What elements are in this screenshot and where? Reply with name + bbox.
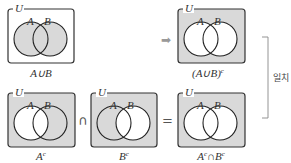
caption-superscript: c — [221, 67, 225, 75]
caption-union: A∪B — [29, 67, 52, 79]
venn-union: U A B A∪B — [8, 2, 74, 79]
caption-text: (A∪B) — [192, 67, 221, 80]
universe-label: U — [15, 86, 24, 98]
set-b-label: B — [127, 99, 134, 111]
venn-diagram-canvas: U A B A∪B ➡ U A B (A∪B)c 일치 U A B Ac ∩ — [0, 0, 291, 163]
intersect-operator: ∩ — [78, 113, 88, 128]
venn-ac-intersect-bc: U A B Ac∩Bc — [178, 86, 245, 162]
caption-text-mid: ∩B — [207, 150, 222, 162]
match-bracket: 일치 — [262, 37, 289, 118]
caption-a-complement: Ac — [35, 150, 47, 162]
arrow-right-icon: ➡ — [161, 33, 171, 47]
set-a-label: A — [26, 15, 34, 27]
set-a-label: A — [26, 99, 34, 111]
venn-union-complement: U A B (A∪B)c — [178, 2, 245, 80]
bracket-line — [262, 37, 268, 118]
set-a-label: A — [109, 99, 117, 111]
universe-label: U — [15, 2, 24, 14]
bracket-label: 일치 — [273, 72, 289, 83]
universe-label: U — [185, 2, 194, 14]
set-b-label: B — [44, 15, 51, 27]
set-a-label: A — [196, 15, 204, 27]
venn-a-complement: U A B Ac — [8, 86, 75, 162]
universe-label: U — [98, 86, 107, 98]
set-a-label: A — [196, 99, 204, 111]
set-b-label: B — [214, 99, 221, 111]
caption-b-complement: Bc — [119, 150, 130, 162]
equals-operator: = — [162, 113, 173, 128]
caption-ac-intersect-bc: Ac∩Bc — [196, 150, 226, 162]
caption-union-complement: (A∪B)c — [192, 67, 225, 80]
universe-label: U — [185, 86, 194, 98]
caption-superscript-2: c — [222, 150, 226, 158]
set-b-label: B — [44, 99, 51, 111]
caption-superscript: c — [126, 150, 130, 158]
caption-superscript: c — [43, 150, 47, 158]
set-b-label: B — [214, 15, 221, 27]
venn-b-complement: U A B Bc — [91, 86, 157, 162]
